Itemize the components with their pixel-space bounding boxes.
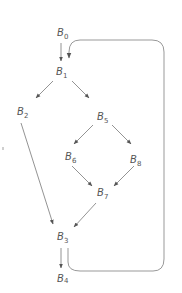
edge-b7-b3	[74, 203, 96, 227]
node-b4: B4	[57, 273, 69, 285]
edge-b2-b3	[21, 123, 53, 224]
node-b0-label: B0	[57, 27, 68, 41]
node-b1: B1	[56, 66, 67, 80]
node-b6: B6	[65, 151, 77, 165]
node-b6-label: B6	[65, 151, 77, 165]
node-b7-label: B7	[97, 187, 108, 201]
node-b8-label: B8	[130, 154, 141, 168]
node-b3: B3	[57, 231, 68, 245]
node-b1-label: B1	[56, 66, 67, 80]
control-flow-graph: B0 B1 B2 B5 B6 B8 B7 B3 B4	[0, 0, 182, 293]
node-b3-label: B3	[57, 231, 68, 245]
node-b8: B8	[130, 154, 141, 168]
edge-b6-b7	[72, 166, 92, 186]
node-b5-label: B5	[97, 111, 108, 125]
node-b5: B5	[97, 111, 108, 125]
edge-b3-b1-loop	[68, 40, 164, 271]
node-b2: B2	[17, 106, 28, 120]
edge-b1-b2	[36, 81, 53, 98]
edge-b5-b8	[112, 125, 131, 144]
edge-b5-b6	[74, 125, 93, 144]
stray-mark	[2, 147, 4, 150]
edge-b8-b7	[114, 166, 134, 186]
node-b0: B0	[57, 27, 68, 41]
node-b2-label: B2	[17, 106, 28, 120]
node-b7: B7	[97, 187, 108, 201]
edge-b1-b5	[72, 81, 89, 98]
node-b4-label: B4	[57, 273, 69, 285]
